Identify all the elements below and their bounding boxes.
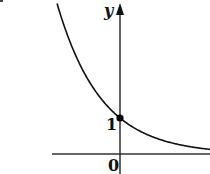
y-intercept-point bbox=[116, 114, 123, 121]
y-intercept-label: 1 bbox=[106, 117, 117, 133]
exponential-curve bbox=[57, 4, 210, 150]
chart-plot bbox=[0, 0, 210, 174]
y-axis-label: y bbox=[104, 3, 113, 19]
y-axis-arrow-icon bbox=[116, 3, 124, 15]
origin-label: 0 bbox=[108, 158, 119, 174]
